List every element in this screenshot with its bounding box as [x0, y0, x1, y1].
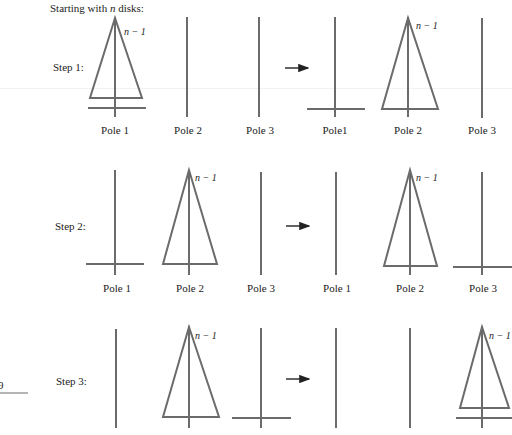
- pole-label: Pole 2: [174, 124, 202, 136]
- step-3-label: Step 3:: [56, 375, 87, 387]
- diagram-title: Starting with n disks:: [50, 2, 144, 14]
- step-2-label: Step 2:: [55, 220, 86, 232]
- stack-label: n − 1: [195, 330, 217, 341]
- title-suffix: disks:: [115, 2, 143, 14]
- stack-label: n − 1: [416, 172, 438, 183]
- title-prefix: Starting with: [50, 2, 110, 14]
- pole-label: Pole 3: [246, 124, 274, 136]
- step2-before: [86, 170, 261, 275]
- step-1-label: Step 1:: [53, 61, 84, 73]
- step3-before: [116, 326, 291, 428]
- stack-label: n − 1: [416, 20, 438, 31]
- step3-after: [336, 326, 512, 428]
- pole-label: Pole 2: [396, 282, 424, 294]
- pole-label: Pole 2: [394, 124, 422, 136]
- step2-after: [336, 170, 512, 275]
- pole-label: Pole 3: [469, 282, 497, 294]
- pole-label: Pole 3: [247, 282, 275, 294]
- step1-after: [307, 17, 482, 118]
- pole-label: Pole 1: [323, 282, 351, 294]
- pole-label: Pole 1: [101, 124, 129, 136]
- stack-label: n − 1: [489, 330, 511, 341]
- page-fragment-text: 9: [0, 379, 4, 391]
- stack-label: n − 1: [195, 172, 217, 183]
- step1-before: [88, 17, 259, 117]
- pole-label: Pole1: [322, 124, 347, 136]
- towers-of-hanoi-diagram: Starting with n disks: Step 1: Step 2: S…: [0, 0, 512, 435]
- stack-label: n − 1: [124, 26, 146, 37]
- pole-label: Pole 1: [103, 282, 131, 294]
- pole-label: Pole 2: [176, 282, 204, 294]
- stack-n-minus-1: [382, 18, 438, 109]
- pole-label: Pole 3: [468, 124, 496, 136]
